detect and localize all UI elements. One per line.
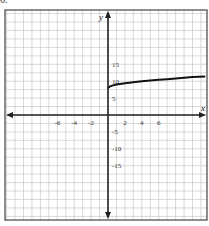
x-axis-arrow-left-icon: [6, 112, 13, 118]
y-axis-arrow-up-icon: [105, 11, 111, 18]
y-tick-label: -5: [112, 128, 118, 136]
y-tick-label: -10: [112, 145, 122, 153]
y-axis-label: y: [98, 12, 103, 22]
function-curve: [108, 77, 205, 89]
y-tick-label: 5: [112, 95, 116, 103]
x-tick-label: 4: [140, 119, 144, 127]
coordinate-plane: -6-4-224615105-5-10-15 x y: [0, 0, 209, 226]
x-tick-label: 6: [157, 119, 161, 127]
x-tick-label: 2: [123, 119, 127, 127]
y-tick-label: 15: [112, 61, 120, 69]
y-tick-label: -15: [112, 162, 122, 170]
axes: [6, 11, 206, 219]
x-tick-label: -4: [71, 119, 77, 127]
x-axis-label: x: [200, 103, 205, 113]
x-tick-label: -6: [54, 119, 60, 127]
x-tick-label: -2: [88, 119, 94, 127]
y-axis-arrow-down-icon: [105, 212, 111, 219]
